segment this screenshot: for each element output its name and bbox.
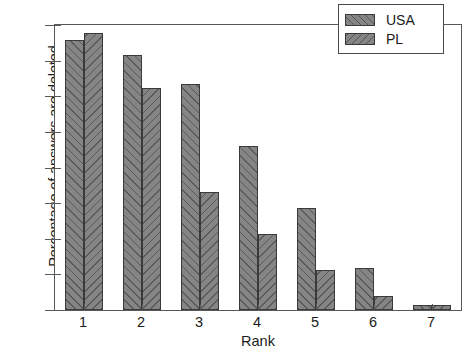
- y-axis-tick: [45, 96, 55, 97]
- x-axis-tick: [374, 304, 375, 311]
- y-axis-tick-inner: [55, 132, 61, 133]
- legend-swatch-usa-icon: [345, 14, 375, 26]
- y-axis-tick-inner: [55, 61, 61, 62]
- legend-label-usa: USA: [386, 12, 415, 28]
- bar-pl-rank-6: [374, 296, 393, 310]
- x-axis-tick-label: 6: [358, 314, 388, 330]
- bar-usa-rank-7: [413, 305, 432, 310]
- y-axis-tick: [45, 203, 55, 204]
- y-axis-tick: [45, 132, 55, 133]
- x-axis-tick: [258, 304, 259, 311]
- x-axis-tick-label: 4: [242, 314, 272, 330]
- bar-usa-rank-5: [297, 208, 316, 310]
- x-axis-tick: [316, 304, 317, 311]
- bar-pl-rank-5: [316, 270, 335, 310]
- y-axis-tick-inner: [55, 168, 61, 169]
- legend-label-pl: PL: [386, 31, 403, 47]
- bar-pl-rank-1: [84, 33, 103, 310]
- bar-pl-rank-4: [258, 234, 277, 310]
- bar-pl-rank-2: [142, 88, 161, 310]
- x-axis-tick-label: 2: [126, 314, 156, 330]
- x-axis-tick-label: 1: [68, 314, 98, 330]
- y-axis-tick-inner: [55, 25, 61, 26]
- x-axis-tick-label: 5: [300, 314, 330, 330]
- bar-usa-rank-6: [355, 268, 374, 310]
- x-axis-tick: [200, 304, 201, 311]
- x-axis-label: Rank: [54, 333, 462, 349]
- x-axis-tick: [84, 304, 85, 311]
- y-axis-tick-inner: [55, 310, 61, 311]
- x-axis-tick: [432, 304, 433, 311]
- y-axis-tick-inner: [55, 274, 61, 275]
- bar-pl-rank-7: [432, 305, 451, 310]
- legend-item-usa[interactable]: USA: [345, 10, 437, 29]
- plot-area: 0.00.10.20.30.40.50.60.70.8: [54, 24, 462, 311]
- y-axis-tick: [45, 25, 55, 26]
- y-axis-tick: [45, 239, 55, 240]
- bar-usa-rank-2: [123, 55, 142, 310]
- legend-item-pl[interactable]: PL: [345, 29, 437, 48]
- x-axis-tick: [142, 304, 143, 311]
- bars-container: [55, 25, 461, 310]
- bar-usa-rank-1: [65, 40, 84, 310]
- chart-figure: Percentage of answers are deleted Rank 0…: [0, 0, 468, 357]
- chart-legend: USA PL: [338, 4, 444, 54]
- bar-pl-rank-3: [200, 192, 219, 310]
- y-axis-tick: [45, 274, 55, 275]
- y-axis-tick: [45, 310, 55, 311]
- legend-swatch-pl-icon: [345, 33, 375, 45]
- x-axis-tick-label: 7: [416, 314, 446, 330]
- y-axis-tick: [45, 61, 55, 62]
- bar-usa-rank-3: [181, 84, 200, 310]
- y-axis-tick: [45, 168, 55, 169]
- x-axis-tick-label: 3: [184, 314, 214, 330]
- y-axis-tick-inner: [55, 96, 61, 97]
- y-axis-tick-inner: [55, 203, 61, 204]
- y-axis-tick-inner: [55, 239, 61, 240]
- bar-usa-rank-4: [239, 146, 258, 310]
